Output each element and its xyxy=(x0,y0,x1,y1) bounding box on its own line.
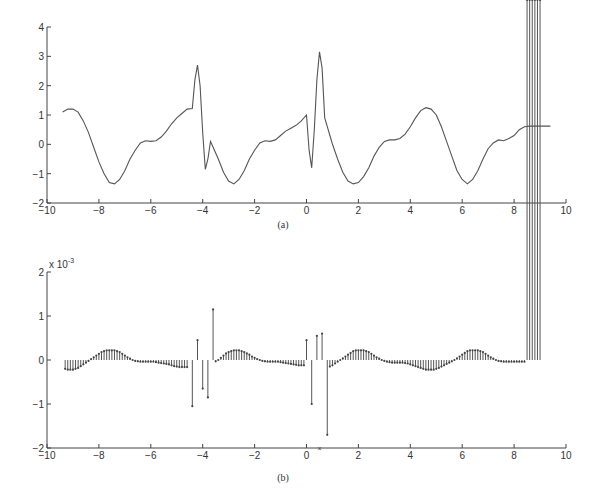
stem-marker xyxy=(160,362,162,364)
stem-marker xyxy=(77,367,79,369)
stem-marker xyxy=(74,368,76,370)
stem-marker xyxy=(365,350,367,352)
stem-marker xyxy=(259,359,261,361)
stem-marker xyxy=(134,360,136,362)
stem-marker xyxy=(165,363,167,365)
stem-marker xyxy=(505,361,507,363)
stem-marker xyxy=(90,358,92,360)
stem-marker xyxy=(287,362,289,364)
stem-marker xyxy=(321,333,323,335)
stem-marker xyxy=(230,350,232,352)
stem-marker xyxy=(373,355,375,357)
y-tick-label: −1 xyxy=(33,169,45,180)
stem-marker xyxy=(370,353,372,355)
stem-marker xyxy=(225,352,227,354)
x-tick-label: 8 xyxy=(511,205,517,216)
stem-marker xyxy=(474,349,476,351)
stem-marker xyxy=(196,339,198,341)
stem-marker xyxy=(246,352,248,354)
a-caption: (a) xyxy=(277,219,288,231)
stem-marker xyxy=(277,361,279,363)
b-y-multiplier: x 10-3 xyxy=(49,257,74,270)
x-tick-label: −2 xyxy=(249,450,261,461)
plot-a: −10−8−6−4−20246810 −2−101234 (a) xyxy=(33,22,572,231)
stem-marker xyxy=(409,363,411,365)
stem-marker xyxy=(139,361,141,363)
stem-marker xyxy=(461,354,463,356)
stem-marker xyxy=(274,361,276,363)
x-tick-label: 0 xyxy=(304,450,310,461)
stem-marker xyxy=(471,349,473,351)
stem-marker xyxy=(285,362,287,364)
stem-marker xyxy=(339,359,341,361)
stem-marker xyxy=(378,358,380,360)
x-tick-label: −4 xyxy=(197,450,209,461)
stem-marker xyxy=(464,352,466,354)
stem-marker xyxy=(368,351,370,353)
b-y-ticks: −2−1012 xyxy=(33,267,51,454)
b-x-ticks: −10−8−6−4−20246810 xyxy=(39,444,572,461)
stem-marker xyxy=(396,362,398,364)
stem-marker xyxy=(484,353,486,355)
stem-marker xyxy=(147,361,149,363)
stem-marker xyxy=(142,361,144,363)
stem-marker xyxy=(168,363,170,365)
stem-marker xyxy=(495,359,497,361)
stem-marker xyxy=(316,335,318,337)
x-tick-label: 8 xyxy=(511,450,517,461)
stem-marker xyxy=(516,361,518,363)
stem-marker xyxy=(100,351,102,353)
stem-marker xyxy=(360,349,362,351)
stem-marker xyxy=(381,359,383,361)
x-tick-label: 0 xyxy=(304,205,310,216)
stem-marker xyxy=(420,367,422,369)
stem-marker xyxy=(352,350,354,352)
stem-marker xyxy=(220,357,222,359)
stem-marker xyxy=(521,361,523,363)
stem-marker xyxy=(243,351,245,353)
stem-marker xyxy=(85,362,87,364)
stem-marker xyxy=(311,403,313,405)
stem-marker xyxy=(383,360,385,362)
a-x-ticks: −10−8−6−4−20246810 xyxy=(39,199,572,216)
stem-marker xyxy=(212,308,214,310)
stem-marker xyxy=(129,358,131,360)
stem-marker xyxy=(186,366,188,368)
stem-marker xyxy=(347,354,349,356)
a-y-ticks: −2−101234 xyxy=(33,22,51,209)
y-tick-label: 2 xyxy=(38,267,44,278)
y-tick-label: 1 xyxy=(38,110,44,121)
stem-marker xyxy=(137,360,139,362)
stem-marker xyxy=(108,349,110,351)
stem-marker xyxy=(103,350,105,352)
stem-marker xyxy=(334,362,336,364)
x-tick-label: −4 xyxy=(197,205,209,216)
stem-marker xyxy=(433,369,435,371)
stem-marker xyxy=(510,361,512,363)
stem-marker xyxy=(150,361,152,363)
b-y-multiplier-exp: -3 xyxy=(68,257,74,264)
stem-marker xyxy=(290,363,292,365)
b-y-multiplier-base: x 10 xyxy=(49,259,68,270)
stem-marker xyxy=(241,350,243,352)
stem-marker xyxy=(266,361,268,363)
stem-marker xyxy=(448,362,450,364)
stem-marker xyxy=(503,361,505,363)
x-tick-label: 10 xyxy=(560,450,572,461)
stem-marker xyxy=(300,364,302,366)
stem-marker xyxy=(152,361,154,363)
stem-marker xyxy=(178,366,180,368)
stem-marker xyxy=(269,361,271,363)
y-tick-label: 1 xyxy=(38,311,44,322)
stem-marker xyxy=(303,364,305,366)
stem-marker xyxy=(329,366,331,368)
stem-marker xyxy=(121,353,123,355)
y-tick-label: −1 xyxy=(33,399,45,410)
stem-marker xyxy=(87,360,89,362)
stem-marker xyxy=(157,362,159,364)
x-tick-label: 10 xyxy=(560,205,572,216)
stem-marker xyxy=(342,357,344,359)
stem-marker xyxy=(64,368,66,370)
stem-marker xyxy=(261,360,263,362)
stem-marker xyxy=(523,361,525,363)
